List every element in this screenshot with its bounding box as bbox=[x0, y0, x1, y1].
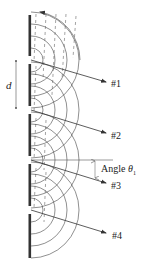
ray-4-label: #4 bbox=[112, 231, 122, 241]
grating-barriers bbox=[29, 15, 32, 258]
barrier-4 bbox=[29, 164, 32, 206]
slit-spacing-label: d bbox=[6, 80, 12, 91]
barrier-3 bbox=[29, 114, 32, 156]
barrier-1 bbox=[29, 15, 32, 56]
ray-1-label: #1 bbox=[111, 79, 121, 89]
ray-1-arrow bbox=[31, 60, 106, 82]
ray-4-arrow bbox=[31, 210, 106, 233]
barrier-2 bbox=[29, 64, 32, 106]
angle-label: Angle θ1 bbox=[101, 164, 136, 176]
ray-3-label: #3 bbox=[111, 181, 121, 191]
barrier-5 bbox=[29, 214, 32, 258]
angle-subscript: 1 bbox=[133, 170, 136, 176]
propagation-arc-arrow bbox=[40, 12, 80, 60]
ray-2-arrow bbox=[31, 110, 106, 133]
diffracted-rays bbox=[31, 60, 106, 233]
ray-2-label: #2 bbox=[111, 131, 121, 141]
angle-label-prefix: Angle bbox=[101, 163, 125, 174]
